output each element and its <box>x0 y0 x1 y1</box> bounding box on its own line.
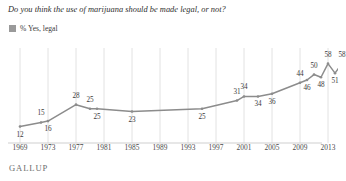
x-tick-label: 2009 <box>293 143 308 152</box>
data-point <box>96 107 99 110</box>
page-title: Do you think the use of marijuana should… <box>8 5 226 14</box>
data-point <box>320 76 323 79</box>
data-point <box>327 62 330 65</box>
data-point <box>257 95 260 98</box>
x-tick-label: 1973 <box>41 143 56 152</box>
data-point <box>201 107 204 110</box>
data-point-label: 25 <box>198 113 205 121</box>
brand-footer: GALLUP <box>9 163 48 173</box>
data-point <box>306 79 309 82</box>
data-point-label: 48 <box>317 81 324 89</box>
data-point <box>313 73 316 76</box>
data-point-label: 15 <box>37 109 44 117</box>
data-point-label: 50 <box>310 62 317 70</box>
x-tick-label: 1985 <box>125 143 140 152</box>
data-point-label: 25 <box>93 113 100 121</box>
data-point-label: 36 <box>268 98 275 106</box>
data-point <box>271 92 274 95</box>
data-point <box>47 120 50 123</box>
data-point <box>243 95 246 98</box>
gridlines <box>20 48 328 143</box>
data-point <box>334 72 337 75</box>
data-point-label: 46 <box>303 84 310 92</box>
x-tick-label: 1969 <box>13 143 28 152</box>
series-markers <box>19 62 338 128</box>
x-tick-label: 1981 <box>97 143 112 152</box>
data-point <box>299 81 302 84</box>
data-point <box>19 125 22 128</box>
x-tick-label: 1989 <box>153 143 168 152</box>
data-point <box>236 99 239 102</box>
data-point <box>40 121 43 124</box>
x-tick-label: 1977 <box>69 143 84 152</box>
data-point-label: 51 <box>331 77 338 85</box>
data-point <box>131 110 134 113</box>
x-tick-label: 2001 <box>237 143 252 152</box>
x-tick-label: 1997 <box>209 143 224 152</box>
data-point-label: 28 <box>72 92 79 100</box>
legend: % Yes, legal <box>9 24 58 33</box>
data-point-label: 25 <box>86 96 93 104</box>
data-point-label: 44 <box>296 70 303 78</box>
data-point-label: 34 <box>240 83 247 91</box>
x-tick-label: 1993 <box>181 143 196 152</box>
data-point-label: 23 <box>128 116 135 124</box>
data-point <box>89 107 92 110</box>
x-tick-label: 2013 <box>321 143 336 152</box>
x-tick-label: 2005 <box>265 143 280 152</box>
plot-area: 12151628252523253134343644465048585158 <box>0 48 338 146</box>
x-axis-ticks: 1969197319771981198519891993199720012005… <box>0 143 338 161</box>
data-point-label: 16 <box>44 125 51 133</box>
square-swatch-icon <box>9 25 16 32</box>
data-point <box>75 103 78 106</box>
series-line <box>20 64 338 127</box>
data-point-label: 58 <box>324 51 331 59</box>
data-point-label: 58 <box>338 51 345 59</box>
data-point-label: 12 <box>16 131 23 139</box>
legend-label: % Yes, legal <box>20 24 58 33</box>
data-point-label: 34 <box>254 100 261 108</box>
